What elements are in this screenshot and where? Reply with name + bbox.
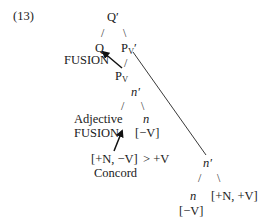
tree-diagram: (13) Q′ / \ Q PV′ FUSION / PV n′ / \ Adj… [0,0,272,223]
fusion-arrow-features-to-adjective [114,131,122,151]
movement-line-pv-bar-to-n-bar [133,52,206,155]
fusion-arrow-pv-to-q [103,52,122,68]
connector-lines [0,0,272,223]
